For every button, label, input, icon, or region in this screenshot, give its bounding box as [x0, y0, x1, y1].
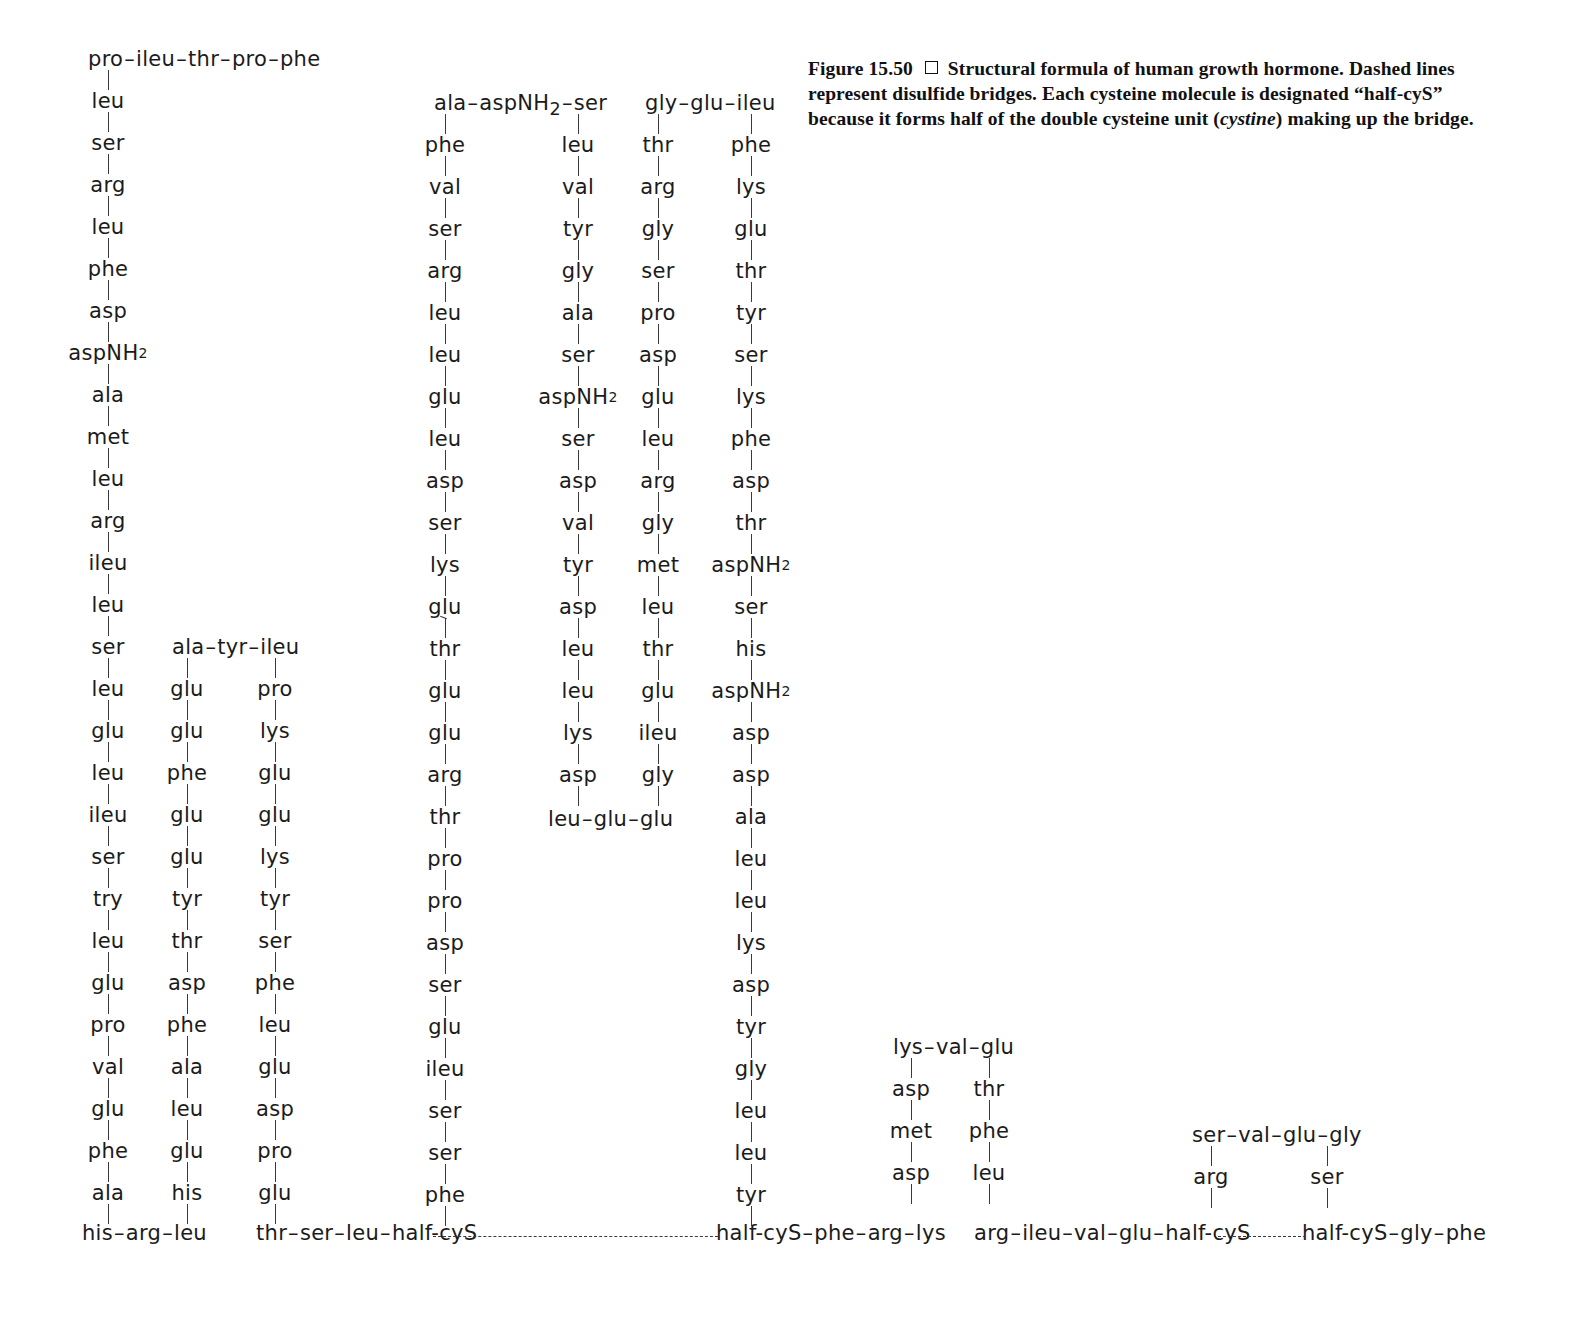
peptide-bond — [108, 826, 109, 846]
residue: ser — [91, 846, 124, 868]
peptide-bond — [751, 282, 752, 302]
residue: glu — [1119, 1221, 1152, 1245]
residue: arg — [427, 260, 462, 282]
top-run-1: pro–ileu–thr–pro–phe — [88, 48, 320, 70]
residue: val — [1238, 1123, 1270, 1147]
residue: asp — [732, 974, 770, 996]
peptide-bond — [108, 238, 109, 258]
residue: leu — [346, 1221, 379, 1245]
peptide-bond — [578, 576, 579, 596]
peptide-bond — [108, 1036, 109, 1056]
residue: thr — [642, 638, 673, 660]
peptide-bond — [275, 1162, 276, 1182]
peptide-bond — [658, 366, 659, 386]
peptide-bond — [108, 364, 109, 384]
residue: phe — [280, 47, 320, 71]
residue: lys — [260, 846, 290, 868]
residue: leu — [429, 344, 462, 366]
residue: his — [736, 638, 767, 660]
residue: lys — [916, 1221, 946, 1245]
residue: glu — [640, 807, 673, 831]
peptide-bond — [751, 534, 752, 554]
peptide-bond — [751, 786, 752, 806]
residue: asp — [892, 1162, 930, 1184]
residue: gly — [642, 764, 675, 786]
peptide-bond — [578, 240, 579, 260]
residue: his — [82, 1221, 113, 1245]
residue-aspnh2: aspNH2 — [711, 554, 790, 576]
bottom-run-5: half-cyS–phe–arg–lys — [716, 1222, 946, 1244]
peptide-bond — [751, 156, 752, 176]
residue: glu — [428, 596, 461, 618]
peptide-bond — [658, 450, 659, 470]
residue: asp — [426, 932, 464, 954]
residue: leu — [92, 90, 125, 112]
peptide-bond — [751, 660, 752, 680]
peptide-bond — [751, 492, 752, 512]
residue: ala — [562, 302, 594, 324]
peptide-bond — [1211, 1188, 1212, 1208]
caption-line-3-pre: because it forms half of the double cyst… — [808, 108, 1220, 129]
residue: ala — [434, 91, 466, 115]
peptide-bond — [445, 744, 446, 764]
peptide-bond — [578, 660, 579, 680]
peptide-bond — [751, 450, 752, 470]
residue: asp — [559, 470, 597, 492]
residue: pro — [257, 678, 292, 700]
residue: ala — [92, 1182, 124, 1204]
residue: glu — [690, 91, 723, 115]
peptide-bond — [989, 1100, 990, 1120]
residue: arg — [90, 174, 125, 196]
residue: lys — [736, 386, 766, 408]
residue: ser — [258, 930, 291, 952]
peptide-bond — [445, 1122, 446, 1142]
peptide-bond — [445, 660, 446, 680]
residue: asp — [256, 1098, 294, 1120]
figure-label: Figure 15.50 — [808, 58, 913, 79]
residue: his — [172, 1182, 203, 1204]
residue: leu — [548, 807, 581, 831]
peptide-bond — [751, 870, 752, 890]
peptide-bond — [275, 784, 276, 804]
peptide-bond — [108, 196, 109, 216]
residue: ala — [92, 384, 124, 406]
residue: try — [93, 888, 123, 910]
residue: ser — [1310, 1166, 1343, 1188]
residue: asp — [559, 764, 597, 786]
residue: phe — [969, 1120, 1009, 1142]
disulfide-bridge-right — [1218, 1236, 1306, 1238]
residue: lys — [430, 554, 460, 576]
residue: asp — [732, 722, 770, 744]
residue: gly — [1400, 1221, 1433, 1245]
peptide-bond — [751, 618, 752, 638]
residue: asp — [892, 1078, 930, 1100]
peptide-bond — [751, 576, 752, 596]
peptide-bond — [658, 408, 659, 428]
residue: glu — [428, 680, 461, 702]
residue: ileu — [88, 804, 127, 826]
residue: arg — [1193, 1166, 1228, 1188]
residue: leu — [92, 468, 125, 490]
peptide-bond — [108, 112, 109, 132]
residue: glu — [641, 680, 674, 702]
residue: thr — [735, 512, 766, 534]
residue: gly — [562, 260, 595, 282]
residue-aspnh2: aspNH2 — [479, 91, 561, 115]
peptide-bond — [911, 1142, 912, 1162]
peptide-bond — [445, 786, 446, 806]
residue: arg — [427, 764, 462, 786]
residue: met — [637, 554, 680, 576]
peptide-bond — [751, 702, 752, 722]
peptide-bond — [578, 786, 579, 806]
residue: glu — [734, 218, 767, 240]
caption-line-1: Structural formula of human growth hormo… — [948, 58, 1455, 79]
residue: glu — [258, 804, 291, 826]
residue: lys — [563, 722, 593, 744]
peptide-bond — [751, 408, 752, 428]
residue: thr — [429, 638, 460, 660]
peptide-bond — [751, 1122, 752, 1142]
residue: pro — [427, 890, 462, 912]
peptide-bond — [445, 450, 446, 470]
residue: lys — [736, 932, 766, 954]
square-bullet-icon — [925, 61, 938, 74]
